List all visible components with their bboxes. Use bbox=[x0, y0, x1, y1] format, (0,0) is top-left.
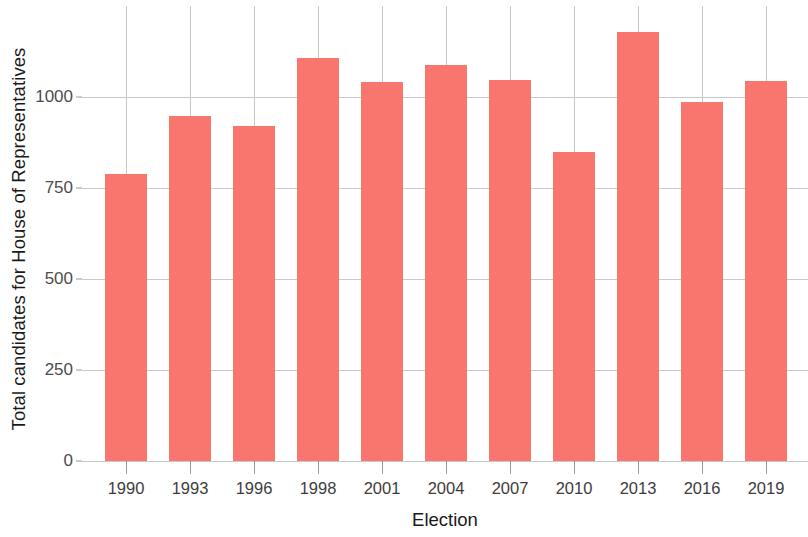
bar-2010 bbox=[553, 152, 595, 461]
x-tick-label-2019: 2019 bbox=[748, 479, 785, 498]
x-tick-mark-2004 bbox=[446, 461, 447, 474]
x-tick-label-2007: 2007 bbox=[492, 479, 529, 498]
x-tick-mark-1998 bbox=[318, 461, 319, 474]
y-axis-title: Total candidates for House of Representa… bbox=[2, 4, 36, 474]
x-tick-mark-2010 bbox=[574, 461, 575, 474]
y-tick-label-1000: 1000 bbox=[35, 87, 73, 107]
x-tick-label-2016: 2016 bbox=[684, 479, 721, 498]
y-tick-mark-750 bbox=[76, 188, 82, 189]
x-tick-label-1998: 1998 bbox=[300, 479, 337, 498]
y-tick-label-0: 0 bbox=[64, 451, 73, 471]
x-axis-title: Election bbox=[82, 509, 808, 531]
bar-1996 bbox=[233, 126, 275, 461]
x-tick-mark-2001 bbox=[382, 461, 383, 474]
bar-1993 bbox=[169, 116, 211, 461]
y-tick-mark-500 bbox=[76, 279, 82, 280]
bar-chart: Total candidates for House of Representa… bbox=[0, 0, 808, 537]
x-tick-label-1996: 1996 bbox=[236, 479, 273, 498]
x-tick-label-2010: 2010 bbox=[556, 479, 593, 498]
x-tick-mark-1996 bbox=[254, 461, 255, 474]
bar-2013 bbox=[617, 32, 659, 461]
x-tick-mark-2016 bbox=[702, 461, 703, 474]
x-tick-label-2013: 2013 bbox=[620, 479, 657, 498]
bar-2001 bbox=[361, 82, 403, 461]
x-tick-mark-1990 bbox=[126, 461, 127, 474]
y-tick-label-500: 500 bbox=[45, 269, 73, 289]
y-tick-mark-1000 bbox=[76, 97, 82, 98]
y-tick-label-750: 750 bbox=[45, 178, 73, 198]
bar-2007 bbox=[489, 80, 531, 461]
y-tick-label-250: 250 bbox=[45, 360, 73, 380]
x-tick-label-2001: 2001 bbox=[364, 479, 401, 498]
x-tick-mark-1993 bbox=[190, 461, 191, 474]
y-tick-mark-0 bbox=[76, 461, 82, 462]
x-tick-mark-2013 bbox=[638, 461, 639, 474]
bar-1990 bbox=[105, 174, 147, 461]
bar-2019 bbox=[745, 81, 787, 461]
x-tick-mark-2019 bbox=[766, 461, 767, 474]
bar-1998 bbox=[297, 58, 339, 461]
y-tick-mark-250 bbox=[76, 370, 82, 371]
x-tick-label-2004: 2004 bbox=[428, 479, 465, 498]
x-tick-label-1993: 1993 bbox=[172, 479, 209, 498]
x-tick-mark-2007 bbox=[510, 461, 511, 474]
bar-2004 bbox=[425, 65, 467, 461]
bar-2016 bbox=[681, 102, 723, 461]
plot-area: 02505007501000 1990199319961998200120042… bbox=[82, 6, 808, 461]
x-tick-label-1990: 1990 bbox=[108, 479, 145, 498]
